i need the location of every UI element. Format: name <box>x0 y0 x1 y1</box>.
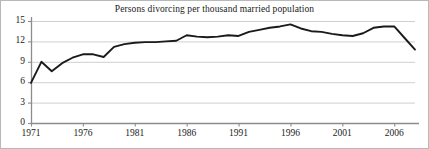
plot-area <box>1 1 429 149</box>
divorce-rate-line-chart: Persons divorcing per thousand married p… <box>0 0 429 149</box>
data-series-line <box>31 24 415 82</box>
